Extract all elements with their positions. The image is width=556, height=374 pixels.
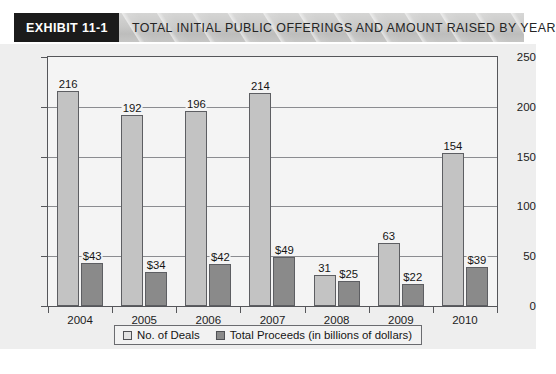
y-axis-tick-label: 200 <box>498 101 536 113</box>
bar-chart-figure: 216$43192$34196$42214$4931$2563$22154$39… <box>0 44 536 349</box>
x-axis-tick-label: 2004 <box>67 314 93 326</box>
bar-deals: 214 <box>249 93 271 306</box>
bar-proceeds: $49 <box>273 257 295 306</box>
bar-group: 31$25 <box>305 57 369 306</box>
x-axis-tick-mark <box>305 307 306 313</box>
bar-group: 214$49 <box>240 57 304 306</box>
legend-label: No. of Deals <box>137 329 200 341</box>
bar-proceeds: $25 <box>338 281 360 306</box>
exhibit-header-band: EXHIBIT 11-1 TOTAL INITIAL PUBLIC OFFERI… <box>14 13 524 42</box>
legend-swatch <box>216 331 225 340</box>
bar-proceeds: $34 <box>145 272 167 306</box>
legend-label: Total Proceeds (in billions of dollars) <box>230 329 412 341</box>
y-axis-tick-mark <box>41 256 47 257</box>
x-axis-tick-label: 2010 <box>452 314 478 326</box>
source-caption <box>8 366 428 374</box>
y-axis-tick-label: 250 <box>498 51 536 63</box>
bar-proceeds: $39 <box>466 267 488 306</box>
legend-swatch <box>123 331 132 340</box>
bar-value-label: $49 <box>274 244 295 256</box>
bar-group: 192$34 <box>112 57 176 306</box>
bar-deals: 196 <box>185 111 207 306</box>
bar-value-label: 63 <box>381 230 396 242</box>
bar-group: 216$43 <box>48 57 112 306</box>
bar-value-label: 214 <box>250 80 271 92</box>
y-axis-tick-label: 50 <box>498 250 536 262</box>
bar-value-label: 31 <box>317 262 332 274</box>
bar-group: 154$39 <box>433 57 497 306</box>
x-axis-tick-mark <box>112 307 113 313</box>
y-axis-tick-mark <box>41 157 47 158</box>
bar-value-label: $34 <box>146 259 167 271</box>
x-axis-tick-mark <box>176 307 177 313</box>
y-axis-tick-mark <box>41 306 47 307</box>
bar-proceeds: $43 <box>81 263 103 306</box>
legend-entry: No. of Deals <box>123 329 200 341</box>
y-axis-tick-label: 150 <box>498 151 536 163</box>
bar-value-label: 192 <box>122 102 143 114</box>
bar-value-label: $25 <box>338 268 359 280</box>
bar-value-label: $42 <box>210 251 231 263</box>
x-axis-tick-mark <box>240 307 241 313</box>
exhibit-title: TOTAL INITIAL PUBLIC OFFERINGS AND AMOUN… <box>119 13 556 42</box>
exhibit-number-tag: EXHIBIT 11-1 <box>14 13 119 42</box>
bar-deals: 192 <box>121 115 143 306</box>
bar-value-label: $39 <box>466 254 487 266</box>
bar-proceeds: $42 <box>209 264 231 306</box>
y-axis-tick-label: 0 <box>498 300 536 312</box>
y-axis-tick-mark <box>41 57 47 58</box>
bar-value-label: 154 <box>442 140 463 152</box>
bars-layer: 216$43192$34196$42214$4931$2563$22154$39 <box>48 57 497 306</box>
y-axis-tick-mark <box>41 107 47 108</box>
bar-value-label: $43 <box>82 250 103 262</box>
x-axis-tick-mark <box>48 307 49 313</box>
bar-group: 196$42 <box>176 57 240 306</box>
x-axis-tick-mark <box>369 307 370 313</box>
bar-value-label: 196 <box>186 98 207 110</box>
bar-deals: 154 <box>442 153 464 306</box>
chart-legend: No. of DealsTotal Proceeds (in billions … <box>114 325 422 345</box>
bar-proceeds: $22 <box>402 284 424 306</box>
legend-entry: Total Proceeds (in billions of dollars) <box>216 329 412 341</box>
bar-deals: 31 <box>314 275 336 306</box>
x-axis-tick-mark <box>433 307 434 313</box>
bar-deals: 63 <box>378 243 400 306</box>
y-axis-tick-label: 100 <box>498 200 536 212</box>
bar-value-label: $22 <box>402 271 423 283</box>
bar-group: 63$22 <box>369 57 433 306</box>
y-axis-tick-mark <box>41 206 47 207</box>
bar-value-label: 216 <box>58 78 79 90</box>
bar-deals: 216 <box>57 91 79 306</box>
